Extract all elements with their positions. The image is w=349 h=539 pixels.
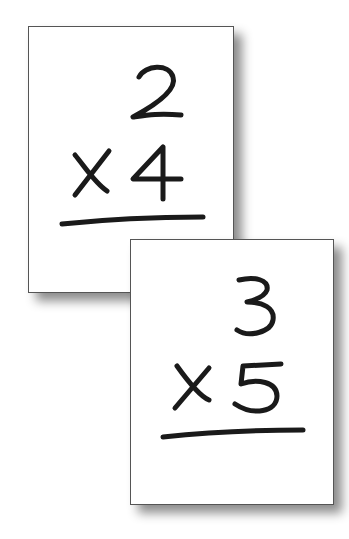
problem-3-times-5 [131,240,335,506]
digit-2 [133,67,181,117]
digit-5 [235,364,281,411]
digit-3 [237,278,273,333]
answer-line [163,430,303,437]
digit-4 [133,147,181,199]
answer-line [62,217,203,224]
times-sign [75,151,109,195]
flash-card-2 [130,239,334,505]
times-sign [175,366,209,408]
